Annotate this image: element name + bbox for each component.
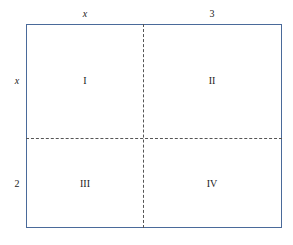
outer-rectangle <box>26 24 282 228</box>
side-label-top: x <box>15 76 19 86</box>
region-II: II <box>209 76 216 86</box>
top-label-right: 3 <box>210 9 215 19</box>
region-III: III <box>80 179 90 189</box>
top-label-left: x <box>83 9 87 19</box>
region-IV: IV <box>207 179 218 189</box>
side-label-bottom: 2 <box>15 179 20 189</box>
region-I: I <box>83 76 86 86</box>
vertical-dashed-divider <box>143 24 144 228</box>
horizontal-dashed-divider <box>26 138 282 139</box>
